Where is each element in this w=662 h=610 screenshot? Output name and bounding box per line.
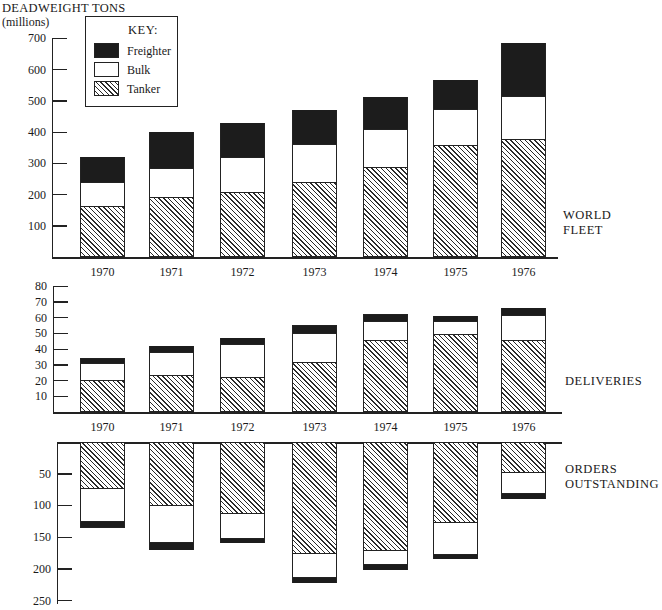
deliveries-tick [53, 301, 68, 302]
deliveries-tick [53, 380, 68, 381]
deliveries-segment-tanker [81, 379, 124, 411]
orders-segment-bulk [502, 472, 545, 494]
orders-bar-1973 [292, 442, 337, 583]
orders-segment-freighter [502, 494, 545, 499]
fleet-segment-tanker [293, 181, 336, 256]
deliveries-year-label: 1970 [78, 421, 128, 433]
orders-tick-label: 150 [11, 531, 51, 543]
orders-tick [57, 537, 72, 538]
orders-y-axis [57, 442, 58, 604]
orders-bar-1971 [149, 442, 194, 550]
deliveries-year-label: 1976 [499, 421, 549, 433]
fleet-year-label: 1970 [78, 266, 128, 278]
deliveries-tick [53, 286, 68, 287]
deliveries-segment-tanker [364, 340, 407, 411]
y-axis-title: DEADWEIGHT TONS [2, 2, 126, 15]
orders-bar-1972 [220, 442, 265, 543]
deliveries-tick-label: 40 [7, 343, 47, 355]
fleet-segment-bulk [293, 144, 336, 182]
deliveries-segment-bulk [293, 333, 336, 363]
fleet-segment-bulk [150, 168, 193, 198]
deliveries-segment-tanker [293, 362, 336, 411]
deliveries-tick-label: 50 [7, 327, 47, 339]
orders-bar-1976 [501, 442, 546, 499]
deliveries-bar-1975 [433, 316, 478, 412]
orders-segment-tanker [364, 443, 407, 551]
fleet-segment-tanker [364, 167, 407, 256]
deliveries-segment-tanker [434, 334, 477, 411]
deliveries-label: DELIVERIES [565, 374, 642, 389]
fleet-tick-label: 700 [6, 32, 46, 44]
fleet-tick-label: 300 [6, 157, 46, 169]
orders-label-line1: ORDERS [565, 462, 659, 477]
fleet-segment-tanker [150, 197, 193, 256]
deliveries-bar-1971 [149, 346, 194, 412]
orders-bar-1974 [363, 442, 408, 570]
tanker-swatch-icon [94, 81, 119, 96]
fleet-tick [52, 69, 67, 70]
fleet-tick [52, 100, 67, 101]
orders-segment-bulk [434, 522, 477, 554]
fleet-segment-freighter [293, 110, 336, 144]
deliveries-tick-label: 70 [7, 296, 47, 308]
deliveries-segment-freighter [434, 316, 477, 321]
deliveries-segment-freighter [81, 359, 124, 364]
fleet-tick [52, 194, 67, 195]
fleet-year-label: 1976 [499, 266, 549, 278]
fleet-bar-1972 [220, 123, 265, 257]
fleet-segment-bulk [364, 129, 407, 168]
fleet-tick [52, 225, 67, 226]
deliveries-segment-bulk [364, 321, 407, 341]
deliveries-x-axis [53, 412, 562, 414]
orders-segment-bulk [364, 550, 407, 566]
fleet-year-label: 1972 [218, 266, 268, 278]
deliveries-tick-label: 10 [7, 390, 47, 402]
fleet-segment-freighter [502, 43, 545, 96]
orders-segment-freighter [81, 522, 124, 527]
deliveries-segment-bulk [502, 315, 545, 342]
orders-segment-bulk [150, 505, 193, 543]
fleet-bar-1970 [80, 157, 125, 257]
orders-tick [57, 600, 72, 601]
fleet-tick [52, 38, 67, 39]
deliveries-segment-tanker [502, 340, 545, 411]
deliveries-year-label: 1975 [431, 421, 481, 433]
fleet-segment-tanker [81, 206, 124, 256]
bulk-swatch-icon [94, 62, 119, 77]
deliveries-bar-1970 [80, 358, 125, 412]
legend-label-bulk: Bulk [127, 63, 150, 78]
deliveries-tick-label: 20 [7, 375, 47, 387]
orders-segment-bulk [293, 553, 336, 578]
orders-outstanding-label: ORDERS OUTSTANDING [565, 462, 659, 492]
orders-segment-tanker [150, 443, 193, 506]
fleet-tick-label: 100 [6, 220, 46, 232]
fleet-segment-freighter [150, 132, 193, 167]
fleet-segment-freighter [364, 97, 407, 129]
fleet-bar-1975 [433, 80, 478, 258]
deliveries-tick-label: 60 [7, 312, 47, 324]
fleet-segment-freighter [434, 80, 477, 109]
fleet-bar-1973 [292, 110, 337, 257]
deliveries-bar-1974 [363, 314, 408, 412]
deliveries-segment-bulk [150, 352, 193, 376]
orders-segment-freighter [221, 539, 264, 543]
fleet-segment-tanker [221, 191, 264, 256]
deliveries-tick-label: 30 [7, 359, 47, 371]
orders-segment-freighter [150, 543, 193, 549]
fleet-segment-bulk [81, 182, 124, 208]
orders-segment-tanker [502, 443, 545, 473]
fleet-bar-1971 [149, 132, 194, 257]
fleet-tick-label: 400 [6, 126, 46, 138]
orders-label-line2: OUTSTANDING [565, 477, 659, 492]
deliveries-segment-freighter [150, 346, 193, 352]
fleet-segment-freighter [81, 157, 124, 181]
orders-tick-label: 250 [11, 595, 51, 607]
fleet-year-label: 1973 [290, 266, 340, 278]
deliveries-bar-1973 [292, 325, 337, 412]
fleet-segment-freighter [221, 123, 264, 157]
orders-segment-tanker [81, 443, 124, 489]
orders-tick [57, 505, 72, 506]
fleet-segment-tanker [434, 145, 477, 256]
deliveries-bar-1976 [501, 308, 546, 412]
orders-tick-label: 200 [11, 563, 51, 575]
